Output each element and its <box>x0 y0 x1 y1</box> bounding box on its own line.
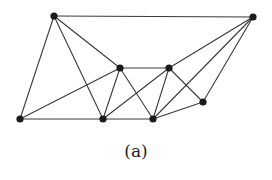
node-A <box>50 12 57 19</box>
node-C <box>116 64 123 71</box>
edge-A-F <box>54 16 103 119</box>
edge-G-H <box>153 102 203 119</box>
node-G <box>149 115 156 122</box>
node-B <box>249 13 256 20</box>
node-D <box>165 64 172 71</box>
node-E <box>16 115 23 122</box>
node-H <box>199 98 206 105</box>
edge-A-E <box>20 16 54 119</box>
edge-A-C <box>54 16 120 68</box>
node-F <box>99 115 106 122</box>
edge-H-B <box>203 17 253 102</box>
edges-layer <box>20 16 253 119</box>
edge-D-F <box>103 68 169 119</box>
edge-A-B <box>54 16 253 17</box>
figure-caption: (a) <box>0 141 272 161</box>
